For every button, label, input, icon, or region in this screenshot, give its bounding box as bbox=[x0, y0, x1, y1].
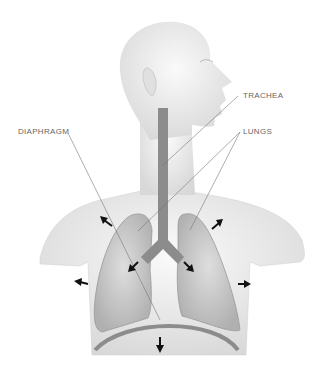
head bbox=[120, 22, 232, 140]
respiratory-diagram bbox=[0, 0, 322, 379]
arrow-left bbox=[74, 278, 88, 286]
torso bbox=[40, 190, 304, 355]
trachea-label: TRACHEA bbox=[243, 91, 283, 100]
lungs-label: LUNGS bbox=[243, 127, 272, 136]
diaphragm-label: DIAPHRAGM bbox=[18, 127, 69, 136]
